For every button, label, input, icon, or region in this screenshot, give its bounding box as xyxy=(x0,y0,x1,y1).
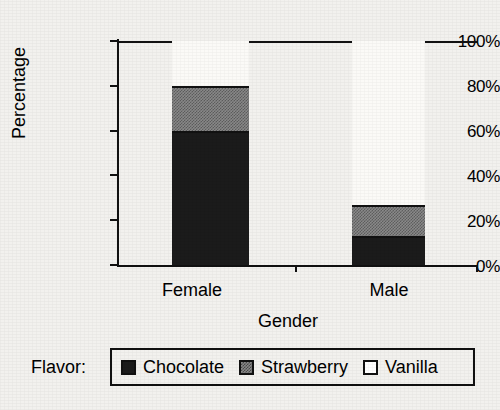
bar-female[interactable] xyxy=(172,41,249,265)
legend-label-strawberry: Strawberry xyxy=(261,358,348,376)
vanilla-swatch-icon xyxy=(363,360,378,375)
legend-label-chocolate: Chocolate xyxy=(143,358,224,376)
segment-male-chocolate[interactable] xyxy=(352,236,425,265)
legend-item-chocolate[interactable]: Chocolate xyxy=(121,358,224,376)
y-axis-title: Percentage xyxy=(10,0,28,139)
segment-male-strawberry[interactable] xyxy=(352,205,425,236)
chocolate-swatch-icon xyxy=(121,360,136,375)
segment-female-chocolate[interactable] xyxy=(172,131,249,265)
y-tick-100 xyxy=(110,40,117,42)
segment-female-vanilla[interactable] xyxy=(172,41,249,86)
legend-box: Chocolate Strawberry Vanilla xyxy=(110,348,475,386)
y-tick-0 xyxy=(110,264,117,266)
plot-area xyxy=(117,41,478,265)
x-tick-mid xyxy=(295,265,297,272)
segment-male-vanilla[interactable] xyxy=(352,41,425,205)
y-tick-20 xyxy=(110,219,117,221)
y-tick-60 xyxy=(110,130,117,132)
x-axis-title: Gender xyxy=(0,312,500,330)
x-tick-right xyxy=(476,265,478,272)
legend-title: Flavor: xyxy=(31,358,86,376)
segment-female-strawberry[interactable] xyxy=(172,86,249,131)
y-tick-40 xyxy=(110,174,117,176)
strawberry-swatch-icon xyxy=(239,360,254,375)
legend-item-strawberry[interactable]: Strawberry xyxy=(239,358,348,376)
x-category-label-male: Male xyxy=(329,281,449,299)
legend-label-vanilla: Vanilla xyxy=(385,358,438,376)
y-tick-80 xyxy=(110,85,117,87)
bar-male[interactable] xyxy=(352,41,425,265)
chart-page: Percentage 100% 80% 60% 40% 20% 0% xyxy=(0,0,500,410)
x-axis-line xyxy=(117,265,478,267)
y-axis-line xyxy=(117,39,119,267)
legend-item-vanilla[interactable]: Vanilla xyxy=(363,358,438,376)
x-category-label-female: Female xyxy=(132,281,252,299)
